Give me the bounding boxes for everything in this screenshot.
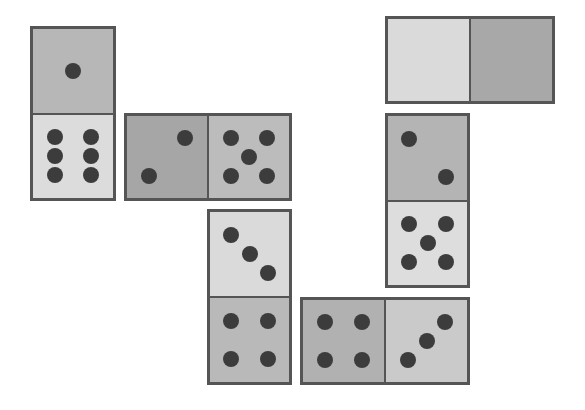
pip-icon: [260, 265, 276, 281]
pip-icon: [223, 351, 239, 367]
domino-half-1: [33, 29, 113, 113]
pip-icon: [317, 352, 333, 368]
domino-half-2: [388, 116, 467, 200]
pip-icon: [83, 167, 99, 183]
pip-icon: [223, 313, 239, 329]
domino-2-5[interactable]: [385, 113, 470, 288]
domino-half-3: [210, 212, 289, 296]
pip-icon: [401, 216, 417, 232]
pip-icon: [223, 130, 239, 146]
pip-icon: [260, 351, 276, 367]
pip-icon: [83, 129, 99, 145]
domino-half-6: [33, 113, 113, 199]
domino-0-0[interactable]: [385, 16, 555, 104]
domino-2-5[interactable]: [124, 113, 292, 201]
pip-icon: [242, 246, 258, 262]
pip-icon: [47, 167, 63, 183]
pip-icon: [83, 148, 99, 164]
domino-half-0: [388, 19, 469, 101]
pip-icon: [438, 169, 454, 185]
domino-half-5: [388, 200, 467, 286]
pip-icon: [401, 254, 417, 270]
pip-icon: [260, 313, 276, 329]
domino-1-6[interactable]: [30, 26, 116, 201]
pip-icon: [177, 130, 193, 146]
pip-icon: [241, 149, 257, 165]
pip-icon: [438, 254, 454, 270]
domino-half-2: [127, 116, 207, 198]
domino-half-4: [303, 300, 384, 382]
pip-icon: [401, 131, 417, 147]
pip-icon: [437, 314, 453, 330]
pip-icon: [354, 352, 370, 368]
pip-icon: [400, 352, 416, 368]
domino-3-4[interactable]: [207, 209, 292, 385]
pip-icon: [47, 129, 63, 145]
pip-icon: [419, 333, 435, 349]
domino-half-3: [384, 300, 467, 382]
pip-icon: [259, 168, 275, 184]
pip-icon: [354, 314, 370, 330]
pip-icon: [47, 148, 63, 164]
pip-icon: [420, 235, 436, 251]
pip-icon: [223, 168, 239, 184]
pip-icon: [141, 168, 157, 184]
domino-half-5: [207, 116, 289, 198]
pip-icon: [438, 216, 454, 232]
domino-4-3[interactable]: [300, 297, 470, 385]
pip-icon: [223, 227, 239, 243]
domino-half-0: [469, 19, 552, 101]
pip-icon: [65, 63, 81, 79]
domino-half-4: [210, 296, 289, 382]
pip-icon: [259, 130, 275, 146]
pip-icon: [317, 314, 333, 330]
